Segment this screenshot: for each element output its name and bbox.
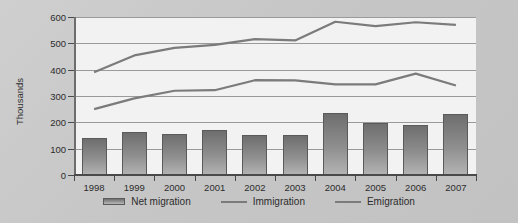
x-axis-tick-mark	[476, 176, 477, 181]
x-axis-tick-mark	[315, 176, 316, 181]
y-axis-tick-label: 500	[50, 38, 66, 49]
x-axis-tick-label: 2002	[244, 182, 265, 193]
y-axis-tick-mark	[68, 149, 74, 150]
x-axis-tick-label: 1998	[84, 182, 105, 193]
x-axis-tick-mark	[436, 176, 437, 181]
chart-legend: Net migrationImmigrationEmigration	[0, 196, 518, 207]
x-axis-tick-label: 2000	[164, 182, 185, 193]
y-axis-tick-mark	[68, 96, 74, 97]
legend-item[interactable]: Net migration	[103, 196, 190, 207]
x-axis-tick-mark	[396, 176, 397, 181]
legend-label: Emigration	[367, 196, 415, 207]
x-axis-tick-mark	[154, 176, 155, 181]
x-axis-tick-label: 2003	[285, 182, 306, 193]
x-axis-tick-label: 1999	[124, 182, 145, 193]
y-axis-tick-label: 0	[61, 170, 66, 181]
y-axis-title: Thousands	[14, 62, 25, 142]
y-axis-tick-labels: 0100200300400500600	[0, 0, 66, 223]
y-axis-line	[74, 17, 76, 176]
x-axis-tick-mark	[235, 176, 236, 181]
x-axis-tick-mark	[275, 176, 276, 181]
y-axis-tick-mark	[68, 70, 74, 71]
x-axis-tick-label: 2001	[204, 182, 225, 193]
y-axis-tick-label: 200	[50, 117, 66, 128]
x-axis-tick-label: 2004	[325, 182, 346, 193]
y-axis-tick-mark	[68, 43, 74, 44]
y-axis-tick-label: 400	[50, 64, 66, 75]
legend-item[interactable]: Emigration	[335, 196, 415, 207]
y-axis-tick-label: 300	[50, 91, 66, 102]
y-axis-tick-mark	[68, 17, 74, 18]
legend-label: Net migration	[131, 196, 190, 207]
legend-item[interactable]: Immigration	[221, 196, 305, 207]
x-axis-tick-label: 2005	[365, 182, 386, 193]
x-axis-tick-label: 2006	[405, 182, 426, 193]
legend-line-swatch-icon	[221, 201, 247, 203]
x-axis-tick-mark	[355, 176, 356, 181]
chart-figure: 0100200300400500600 19981999200020012002…	[0, 0, 518, 223]
line-series-layer	[74, 17, 476, 175]
legend-label: Immigration	[253, 196, 305, 207]
x-axis-tick-label: 2007	[445, 182, 466, 193]
plot-area	[74, 17, 476, 175]
x-axis-tick-mark	[195, 176, 196, 181]
line-immigration	[94, 22, 456, 73]
legend-line-swatch-icon	[335, 201, 361, 203]
y-axis-tick-label: 600	[50, 12, 66, 23]
y-axis-tick-label: 100	[50, 143, 66, 154]
y-axis-tick-mark	[68, 122, 74, 123]
x-axis-tick-mark	[74, 176, 75, 181]
x-axis-tick-mark	[114, 176, 115, 181]
legend-bar-swatch-icon	[103, 198, 125, 205]
line-emigration	[94, 74, 456, 110]
